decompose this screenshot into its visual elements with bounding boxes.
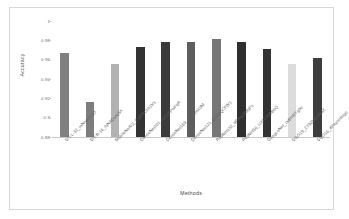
y-tick-mark: [49, 60, 51, 61]
y-tick-label: 0.88: [4, 135, 50, 140]
bar: [161, 42, 170, 137]
y-tick-mark: [49, 98, 51, 99]
bar: [263, 49, 272, 137]
bar: [313, 58, 322, 137]
bar: [136, 47, 145, 137]
bar: [237, 42, 246, 137]
y-axis-label: Accuracy: [19, 35, 25, 95]
bar: [60, 53, 69, 137]
y-tick-mark: [49, 21, 51, 22]
bar: [111, 64, 120, 137]
y-tick-label: 0.9: [4, 115, 50, 120]
y-tick-mark: [49, 40, 51, 41]
y-tick-label: 0.92: [4, 96, 50, 101]
y-axis: 0.880.90.920.940.960.981: [0, 0, 50, 219]
y-tick-mark: [49, 137, 51, 138]
y-tick-label: 0.98: [4, 38, 50, 43]
y-tick-label: 0.96: [4, 57, 50, 62]
y-tick-mark: [49, 118, 51, 119]
x-axis-label: Methods: [52, 190, 330, 196]
y-tick-label: 1: [4, 19, 50, 24]
y-tick-label: 0.94: [4, 77, 50, 82]
bar: [288, 64, 297, 137]
y-tick-mark: [49, 79, 51, 80]
